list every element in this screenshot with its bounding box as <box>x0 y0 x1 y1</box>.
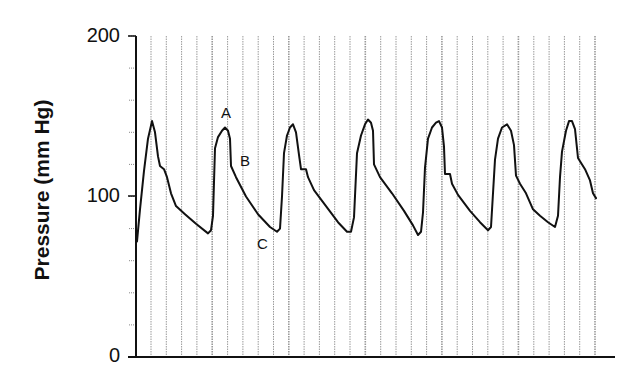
y-tick-label-200: 200 <box>60 24 120 47</box>
y-tick-label-100: 100 <box>60 184 120 207</box>
pressure-waveform-line <box>137 120 596 242</box>
annotation-b-dicrotic-notch: B <box>240 152 250 169</box>
y-axis-label: Pressure (mm Hg) <box>30 100 54 281</box>
y-tick-label-0: 0 <box>60 344 120 367</box>
annotation-c-diastolic-minimum: C <box>257 235 268 252</box>
annotation-a-systolic-peak: A <box>221 104 231 121</box>
